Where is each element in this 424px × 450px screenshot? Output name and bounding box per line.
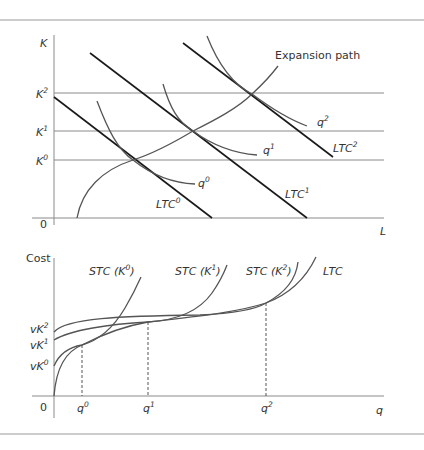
ltc0-line: [54, 97, 212, 218]
q1-tick-label: q1: [143, 400, 155, 415]
q0-tick-label: q0: [77, 400, 89, 415]
stc-k0-curve: [54, 277, 141, 366]
q2-tick-label: q2: [261, 400, 273, 415]
expansion-path-label: Expansion path: [275, 49, 360, 62]
q0-isoquant-label: q0: [198, 175, 210, 190]
q2-isoquant-label: q2: [317, 114, 329, 129]
vk2-tick-label: vK2: [30, 321, 49, 336]
origin-label-top: 0: [40, 218, 47, 231]
vk0-tick-label: vK0: [30, 358, 49, 373]
ltc2-label: LTC2: [333, 140, 358, 155]
k2-tick-label: K2: [36, 86, 48, 101]
l-axis-label: L: [380, 225, 386, 238]
k1-tick-label: K1: [36, 124, 48, 139]
cost-axis-label: Cost: [26, 252, 51, 265]
k-axis-label: K: [40, 37, 48, 50]
isoquant-q0: [97, 101, 195, 184]
stc-k2-label: STC (K2): [246, 263, 291, 278]
ltc0-label: LTC0: [156, 196, 181, 211]
q1-isoquant-label: q1: [263, 142, 275, 157]
k0-tick-label: K0: [36, 153, 48, 168]
cost-chart: Cost q 0 vK2 vK1 vK0 q0 q1 q2 STC (K0) S…: [26, 252, 384, 418]
q-axis-label: q: [376, 404, 383, 417]
isoquant-chart: K L 0 K2 K1 K0 Expansion path q0 q1 q2 L…: [32, 35, 386, 238]
stc-k0-label: STC (K0): [89, 263, 134, 278]
ltc-label: LTC: [323, 265, 343, 278]
stc-k1-label: STC (K1): [175, 263, 220, 278]
figure: K L 0 K2 K1 K0 Expansion path q0 q1 q2 L…: [0, 0, 424, 450]
ltc1-label: LTC1: [285, 186, 310, 201]
origin-label-bottom: 0: [40, 401, 47, 414]
vk1-tick-label: vK1: [30, 337, 49, 352]
